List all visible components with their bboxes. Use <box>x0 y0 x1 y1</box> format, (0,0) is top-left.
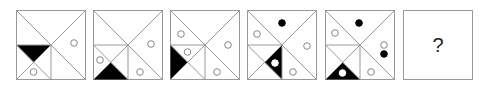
white-circle <box>97 57 104 64</box>
panel-2 <box>93 10 163 80</box>
white-circle <box>272 60 279 67</box>
white-circle <box>368 69 375 76</box>
figure-3 <box>170 10 240 80</box>
panel-1 <box>16 10 86 80</box>
white-circle <box>290 69 297 76</box>
panel-6-answer: ? <box>403 10 473 80</box>
white-circle <box>184 49 191 56</box>
figure-4 <box>247 10 317 80</box>
white-circle <box>30 69 37 76</box>
black-circle <box>381 51 388 58</box>
black-circle <box>356 20 363 27</box>
white-circle <box>71 40 78 47</box>
white-circle <box>148 41 155 48</box>
white-circle <box>254 31 261 38</box>
white-circle <box>178 31 185 38</box>
white-circle <box>332 30 339 37</box>
white-circle <box>304 43 311 50</box>
panel-3 <box>170 10 240 80</box>
white-circle <box>381 42 388 49</box>
panel-5 <box>325 10 395 80</box>
figure-2 <box>93 10 163 80</box>
question-mark: ? <box>403 10 473 80</box>
black-circle <box>279 20 286 27</box>
white-circle <box>225 42 232 49</box>
figure-1 <box>16 10 86 80</box>
panel-4 <box>247 10 317 80</box>
white-circle <box>214 69 221 76</box>
figure-5 <box>325 10 395 80</box>
white-circle <box>137 69 144 76</box>
white-circle <box>339 70 346 77</box>
